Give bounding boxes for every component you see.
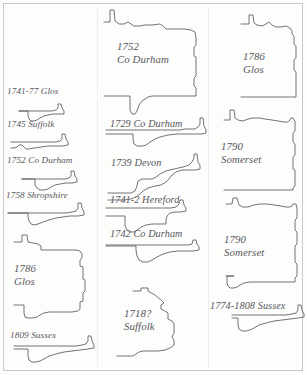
profile-label-1790-somerset-bottom: 1790 Somerset	[224, 233, 264, 259]
label-line: 1752 Co Durham	[7, 155, 73, 166]
label-line: 1741-2 Hereford	[110, 194, 180, 206]
label-line: 1741-77 Glos	[7, 86, 58, 97]
profile-label-1739-devon: 1739 Devon	[111, 157, 162, 169]
label-line: Suffolk	[124, 320, 155, 333]
label-line: 1742 Co Durham	[110, 228, 183, 240]
profile-label-1752-co-durham-large: 1752 Co Durham	[117, 40, 169, 66]
label-line: 1729 Co Durham	[110, 118, 183, 130]
profile-label-1786-glos-left: 1786 Glos	[14, 262, 36, 288]
label-line: Glos	[243, 63, 265, 76]
profile-label-1774-1808-sussex: 1774-1808 Sussex	[210, 300, 285, 312]
figure-plate: 1741-77 Glos 1745 Suffolk 1752 Co Durham…	[0, 0, 307, 375]
profile-label-1729-co-durham: 1729 Co Durham	[110, 118, 183, 130]
profile-label-1752-co-durham: 1752 Co Durham	[7, 155, 73, 166]
profile-label-1741-77-glos: 1741-77 Glos	[7, 86, 58, 97]
label-line: Co Durham	[117, 53, 169, 66]
profile-label-1742-co-durham: 1742 Co Durham	[110, 228, 183, 240]
label-line: Glos	[14, 275, 36, 288]
profile-label-1758-shropshire: 1758 Shropshire	[6, 190, 68, 201]
profile-label-1718-suffolk: 1718? Suffolk	[124, 307, 155, 333]
profile-outline-1752-co-durham	[22, 171, 77, 190]
label-line: Somerset	[224, 246, 264, 259]
label-line: 1718?	[124, 307, 155, 320]
label-line: 1774-1808 Sussex	[210, 300, 285, 312]
profile-label-1786-glos-right: 1786 Glos	[243, 50, 265, 76]
label-line: 1790	[224, 233, 264, 246]
label-line: 1786	[14, 262, 36, 275]
label-line: 1739 Devon	[111, 157, 162, 169]
profile-outline-1758-shropshire	[8, 203, 84, 225]
profile-label-1809-sussex: 1809 Sussex	[10, 330, 56, 341]
label-line: 1758 Shropshire	[6, 190, 68, 201]
profile-label-1790-somerset-top: 1790 Somerset	[221, 140, 261, 166]
profile-outline-1742-co-durham	[106, 240, 199, 262]
label-line: 1786	[243, 50, 265, 63]
label-line: 1790	[221, 140, 261, 153]
profile-outline-1745-suffolk	[11, 134, 68, 149]
profile-label-1741-2-hereford: 1741-2 Hereford	[110, 194, 180, 206]
profile-label-1745-suffolk: 1745 Suffolk	[7, 119, 54, 130]
label-line: 1745 Suffolk	[7, 119, 54, 130]
label-line: Somerset	[221, 153, 261, 166]
label-line: 1752	[117, 40, 169, 53]
label-line: 1809 Sussex	[10, 330, 56, 341]
